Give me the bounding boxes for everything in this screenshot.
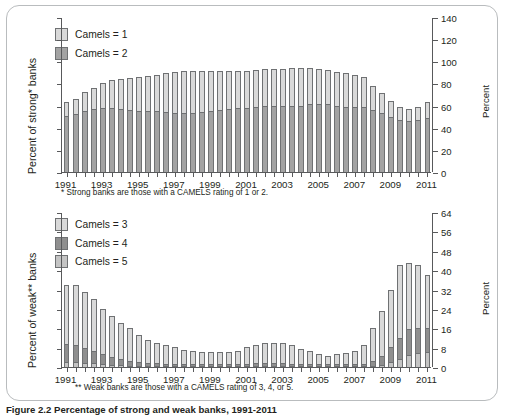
bar [181, 71, 187, 172]
bar-segment [118, 323, 124, 358]
bar [163, 345, 169, 367]
bar [244, 71, 250, 172]
bar-segment [262, 106, 268, 172]
x-axis-tick [121, 367, 122, 372]
y-axis-tick [433, 84, 438, 85]
bar [262, 343, 268, 367]
x-axis-tick [193, 172, 194, 177]
bar-segment [91, 351, 97, 364]
bar-segment [136, 77, 142, 111]
bar [217, 352, 223, 367]
bar [334, 72, 340, 172]
y-axis-tick [433, 18, 438, 19]
bar-segment [199, 352, 205, 364]
y-axis-tick-label: 48 [441, 246, 452, 257]
x-axis-tick-label: 1995 [127, 179, 149, 190]
x-axis-tick [175, 367, 176, 372]
bar [253, 345, 259, 367]
x-axis-tick [328, 172, 329, 177]
bar-segment [307, 104, 313, 172]
bar-segment [262, 343, 268, 364]
bar-segment [397, 338, 403, 359]
bar-segment [100, 354, 106, 364]
x-axis-tick-label: 2001 [235, 374, 257, 385]
bar [316, 69, 322, 172]
x-axis-tick [265, 367, 266, 372]
right-axis-weak: 0816243240485664 [432, 213, 433, 367]
figure-container: Percent of strong* banks Percent Camels … [0, 0, 506, 418]
bar-segment [316, 354, 322, 364]
panel-strong-banks: Percent of strong* banks Percent Camels … [0, 0, 506, 205]
bar-segment [64, 116, 70, 172]
x-axis-tick [247, 367, 248, 372]
bar [325, 356, 331, 367]
x-axis-tick [103, 172, 104, 177]
x-axis-tick [103, 367, 104, 372]
bar-segment [370, 110, 376, 172]
bar [334, 354, 340, 367]
bar-segment [244, 71, 250, 108]
bar [118, 79, 124, 172]
bar [343, 73, 349, 172]
bar [352, 75, 358, 172]
x-axis-tick-label: 2009 [380, 374, 402, 385]
bar-segment [388, 101, 394, 117]
bar-segment [425, 102, 431, 118]
bar-segment [406, 263, 412, 330]
bar [235, 351, 241, 367]
bar-segment [406, 329, 412, 354]
bar-segment [73, 114, 79, 172]
x-axis-tick-label: 1995 [127, 374, 149, 385]
bar-segment [298, 349, 304, 364]
bar [325, 70, 331, 172]
bar-segment [425, 328, 431, 352]
bar [352, 351, 358, 367]
x-axis-tick [85, 172, 86, 177]
x-axis-tick [409, 172, 410, 177]
bar-segment [343, 73, 349, 106]
y-axis-tick-label: 32 [441, 285, 452, 296]
x-axis-tick-label: 1993 [91, 179, 113, 190]
bar-segment [379, 93, 385, 113]
bar [253, 70, 259, 172]
bar-segment [127, 110, 133, 172]
x-axis-tick [229, 367, 230, 372]
x-axis-tick [274, 172, 275, 177]
bar-segment [307, 351, 313, 364]
y-axis-tick [57, 232, 62, 233]
y-axis-tick-label: 20 [441, 145, 452, 156]
bar [298, 68, 304, 172]
bar-segment [208, 71, 214, 111]
x-axis-tick [427, 172, 428, 177]
x-axis-tick [319, 367, 320, 372]
bar-segment [190, 113, 196, 172]
bar-segment [352, 75, 358, 107]
bar-segment [379, 113, 385, 172]
bar [397, 265, 403, 367]
bar-segment [100, 83, 106, 107]
bar-segment [226, 109, 232, 172]
y-axis-tick-label: 0 [441, 168, 446, 179]
x-axis-tick [427, 367, 428, 372]
bar-segment [406, 355, 412, 367]
x-axis-tick [301, 367, 302, 372]
bar [100, 83, 106, 172]
bar [73, 285, 79, 367]
x-axis-tick [229, 172, 230, 177]
x-axis-tick [121, 172, 122, 177]
x-axis-tick [85, 367, 86, 372]
y-axis-tick [433, 349, 438, 350]
bar-segment [226, 352, 232, 364]
x-axis-tick-label: 1991 [55, 179, 77, 190]
bar-segment [271, 343, 277, 364]
bar-segment [352, 107, 358, 172]
x-axis-tick [382, 172, 383, 177]
bar-segment [388, 290, 394, 348]
bar-segment [91, 299, 97, 350]
plot-area-strong: 020406080100120140 [61, 18, 431, 173]
x-axis-tick [76, 367, 77, 372]
x-axis-tick [310, 367, 311, 372]
y-axis-tick [57, 329, 62, 330]
bar-segment [415, 265, 421, 328]
x-axis-tick [400, 172, 401, 177]
